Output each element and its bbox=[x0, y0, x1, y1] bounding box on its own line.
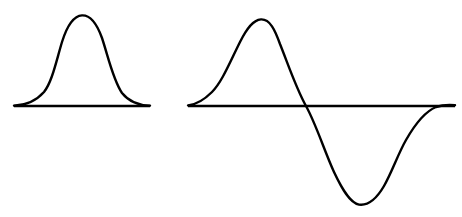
curves-figure-svg bbox=[0, 0, 462, 217]
figure-background bbox=[0, 0, 462, 217]
figure-container bbox=[0, 0, 462, 217]
